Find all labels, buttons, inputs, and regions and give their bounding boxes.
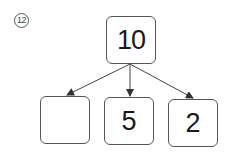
child-box-right: 2 [168, 99, 218, 147]
arrow-to-left [67, 64, 130, 95]
root-box: 10 [106, 16, 156, 64]
arrow-to-right [130, 64, 193, 98]
child-box-empty[interactable] [40, 96, 90, 144]
child-box-middle: 5 [104, 97, 154, 145]
